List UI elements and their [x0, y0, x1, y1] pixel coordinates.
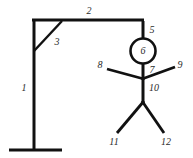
stroke-left-leg — [117, 101, 144, 133]
part-label-7: 7 — [150, 65, 155, 75]
part-label-2: 2 — [87, 6, 92, 16]
part-label-11: 11 — [109, 137, 118, 147]
part-label-5: 5 — [150, 25, 155, 35]
hangman-diagram: 1 2 3 5 6 7 8 9 10 11 12 — [0, 0, 193, 158]
stroke-right-arm — [142, 67, 175, 79]
hangman-line-drawing — [0, 0, 193, 158]
part-label-3: 3 — [55, 37, 60, 47]
part-label-8: 8 — [98, 60, 103, 70]
part-label-9: 9 — [178, 60, 183, 70]
part-label-6: 6 — [141, 46, 146, 56]
part-label-12: 12 — [161, 137, 171, 147]
stroke-left-arm — [107, 69, 144, 79]
stroke-right-leg — [142, 101, 164, 133]
part-label-1: 1 — [22, 83, 27, 93]
part-label-10: 10 — [149, 83, 159, 93]
